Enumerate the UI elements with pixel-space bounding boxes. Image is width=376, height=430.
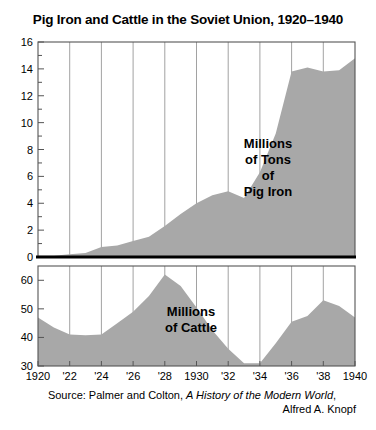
pig-iron-series-label: Pig Iron (244, 184, 292, 199)
x-tick-label: '24 (94, 370, 108, 382)
chart-figure: Pig Iron and Cattle in the Soviet Union,… (0, 0, 376, 430)
x-tick-label: '26 (126, 370, 140, 382)
x-tick-label: '34 (253, 370, 267, 382)
pig-iron-panel: 0246810121416 (21, 36, 355, 263)
pig-iron-series-label: of (262, 168, 275, 183)
x-tick-label: '32 (221, 370, 235, 382)
pig-iron-y-tick-label: 16 (21, 36, 33, 48)
cattle-series-label: Millions (167, 304, 215, 319)
cattle-y-tick-label: 40 (21, 331, 33, 343)
source-book-title: A History of the Modern World (186, 389, 333, 401)
pig-iron-y-tick-label: 0 (27, 251, 33, 263)
x-tick-label: '22 (63, 370, 77, 382)
pig-iron-y-tick-label: 12 (21, 90, 33, 102)
x-tick-label: '38 (316, 370, 330, 382)
pig-iron-y-tick-label: 14 (21, 63, 33, 75)
source-suffix: , (333, 389, 336, 401)
pig-iron-series-label: Millions (244, 136, 292, 151)
x-tick-label: 1940 (343, 370, 367, 382)
source-line-2: Alfred A. Knopf (22, 402, 362, 416)
x-tick-label: 1930 (184, 370, 208, 382)
x-tick-label: 1920 (26, 370, 50, 382)
pig-iron-y-tick-label: 4 (27, 197, 33, 209)
source-line-1: Source: Palmer and Colton, A History of … (48, 389, 336, 401)
pig-iron-y-tick-label: 6 (27, 170, 33, 182)
pig-iron-y-tick-label: 10 (21, 117, 33, 129)
cattle-series-label: of Cattle (165, 320, 217, 335)
cattle-y-tick-label: 60 (21, 274, 33, 286)
source-note: Source: Palmer and Colton, A History of … (22, 388, 362, 416)
source-prefix: Source: Palmer and Colton, (48, 389, 186, 401)
pig-iron-y-tick-label: 8 (27, 144, 33, 156)
x-tick-label: '28 (158, 370, 172, 382)
chart-plot-area: 0246810121416304050601920'22'24'26'28193… (0, 0, 376, 388)
x-tick-label: '36 (284, 370, 298, 382)
cattle-y-tick-label: 50 (21, 303, 33, 315)
cattle-panel: 30405060 (21, 266, 355, 372)
pig-iron-y-tick-label: 2 (27, 224, 33, 236)
pig-iron-series-label: of Tons (245, 152, 291, 167)
